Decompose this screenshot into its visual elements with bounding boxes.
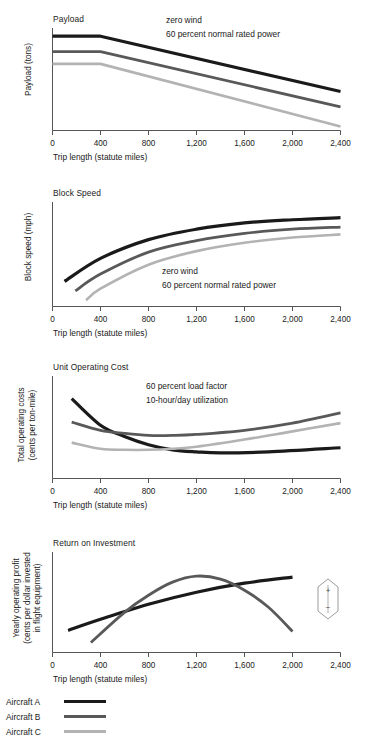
x-tick-400: 400 xyxy=(94,661,108,670)
series-line-aircraft-c xyxy=(86,234,340,300)
x-tick-400: 400 xyxy=(94,139,108,148)
series-line-aircraft-a xyxy=(68,577,292,630)
x-tick-0: 0 xyxy=(50,315,55,324)
series-line-aircraft-b xyxy=(72,413,341,436)
x-tick-labels-payload: 0 400 800 1,200 1,600 2,000 2,400 xyxy=(50,139,351,148)
x-tick-1600: 1,600 xyxy=(234,487,255,496)
chart-panel-block-speed: Block Speed Block speed (mph) zero wind … xyxy=(0,180,370,358)
x-tick-400: 400 xyxy=(94,487,108,496)
series-group-return-on-investment xyxy=(68,576,292,642)
x-tick-400: 400 xyxy=(94,315,108,324)
x-tick-2000: 2,000 xyxy=(282,315,303,324)
x-tick-0: 0 xyxy=(50,487,55,496)
chart-panel-unit-operating-cost: Unit Operating Cost Total operating cost… xyxy=(0,358,370,530)
series-group-block-speed xyxy=(65,218,341,301)
legend-item-aircraft-c: Aircraft C xyxy=(6,724,166,739)
x-axis-label-return-on-investment: Trip length (statute miles) xyxy=(53,674,147,684)
x-tick-800: 800 xyxy=(142,661,156,670)
x-tick-labels-block-speed: 0 400 800 1,200 1,600 2,000 2,400 xyxy=(50,315,351,324)
plot-area-return-on-investment: 0 400 800 1,200 1,600 2,000 2,400 xyxy=(0,530,370,694)
x-tick-2400: 2,400 xyxy=(330,487,351,496)
legend-item-aircraft-a: Aircraft A xyxy=(6,694,166,709)
legend-swatch-aircraft-c xyxy=(64,730,106,733)
indicator-minus-label: − xyxy=(326,603,331,612)
indicator-plus-label: + xyxy=(326,586,331,595)
x-tick-2000: 2,000 xyxy=(282,139,303,148)
x-tick-0: 0 xyxy=(50,139,55,148)
x-tick-800: 800 xyxy=(142,315,156,324)
x-tick-1200: 1,200 xyxy=(186,661,207,670)
x-tick-0: 0 xyxy=(50,661,55,670)
x-tick-2400: 2,400 xyxy=(330,661,351,670)
legend-swatch-aircraft-b xyxy=(64,715,106,718)
x-tick-1200: 1,200 xyxy=(186,487,207,496)
axes-return-on-investment xyxy=(53,552,341,657)
x-tick-1200: 1,200 xyxy=(186,139,207,148)
legend: Aircraft A Aircraft B Aircraft C xyxy=(6,694,166,739)
x-axis-label-unit-operating-cost: Trip length (statute miles) xyxy=(53,500,147,510)
x-axis-label-payload: Trip length (statute miles) xyxy=(53,152,147,162)
chart-panel-payload: Payload Payload (tons) zero wind 60 perc… xyxy=(0,0,370,180)
legend-swatch-aircraft-a xyxy=(64,700,106,703)
x-tick-2000: 2,000 xyxy=(282,487,303,496)
legend-label-aircraft-c: Aircraft C xyxy=(6,727,60,737)
x-tick-1600: 1,600 xyxy=(234,315,255,324)
legend-label-aircraft-b: Aircraft B xyxy=(6,712,60,722)
x-tick-800: 800 xyxy=(142,487,156,496)
x-tick-1600: 1,600 xyxy=(234,661,255,670)
chart-panel-return-on-investment: Return on Investment Yearly operating pr… xyxy=(0,530,370,694)
x-tick-labels-unit-operating-cost: 0 400 800 1,200 1,600 2,000 2,400 xyxy=(50,487,351,496)
x-tick-2400: 2,400 xyxy=(330,139,351,148)
x-tick-1600: 1,600 xyxy=(234,139,255,148)
x-tick-2400: 2,400 xyxy=(330,315,351,324)
legend-item-aircraft-b: Aircraft B xyxy=(6,709,166,724)
series-line-aircraft-b xyxy=(91,576,293,642)
plus-minus-indicator-icon: + − xyxy=(316,578,340,620)
series-group-payload xyxy=(53,36,341,126)
x-axis-label-block-speed: Trip length (statute miles) xyxy=(53,328,147,338)
series-line-aircraft-c xyxy=(72,423,341,450)
figure-page: Payload Payload (tons) zero wind 60 perc… xyxy=(0,0,370,752)
x-tick-labels-return-on-investment: 0 400 800 1,200 1,600 2,000 2,400 xyxy=(50,661,351,670)
x-tick-1200: 1,200 xyxy=(186,315,207,324)
x-tick-2000: 2,000 xyxy=(282,661,303,670)
x-tick-800: 800 xyxy=(142,139,156,148)
series-group-unit-operating-cost xyxy=(72,399,341,453)
legend-label-aircraft-a: Aircraft A xyxy=(6,697,60,707)
